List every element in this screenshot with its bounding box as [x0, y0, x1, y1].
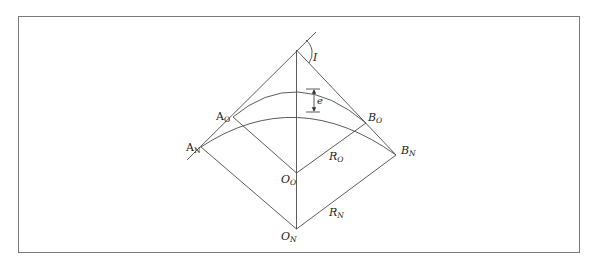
A-new-label: AN — [185, 141, 201, 155]
curve-shift-diagram: I e AO AN BO BN OO ON RO RN — [0, 0, 596, 264]
old-radius-left — [233, 117, 297, 173]
O-new-label: ON — [281, 230, 297, 244]
A-old-label: AO — [215, 110, 230, 124]
forward-tangent-line — [297, 50, 397, 155]
old-radius-right — [297, 123, 367, 173]
old-curve-arc — [233, 92, 366, 123]
new-curve-arc — [201, 117, 396, 155]
offset-label: e — [317, 95, 323, 106]
angle-label: I — [312, 51, 318, 64]
R-new-label: RN — [328, 206, 344, 220]
B-new-label: BN — [400, 144, 416, 158]
O-old-label: OO — [281, 173, 296, 187]
R-old-label: RO — [328, 150, 343, 164]
new-radius-right — [297, 155, 397, 229]
deflection-angle-arc — [306, 40, 312, 63]
new-radius-left — [201, 147, 297, 229]
B-old-label: BO — [367, 111, 382, 125]
